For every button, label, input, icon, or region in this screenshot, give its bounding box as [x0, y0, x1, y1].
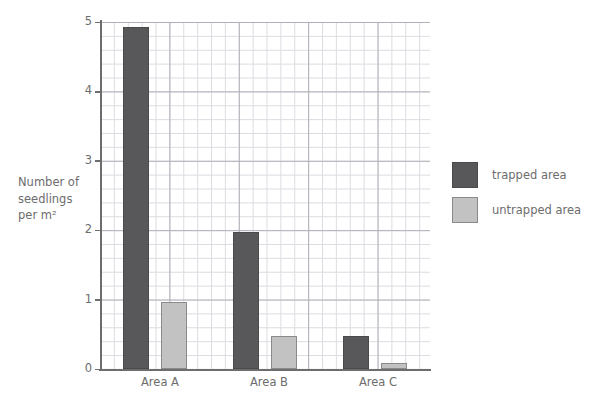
- legend-label-untrapped: untrapped area: [492, 203, 581, 217]
- y-tick-label-5: 5: [68, 16, 92, 28]
- bars-layer: [100, 22, 430, 369]
- legend-label-trapped: trapped area: [492, 168, 567, 182]
- bar-area-c-untrapped: [381, 363, 407, 369]
- x-axis-label-area-a: Area A: [115, 376, 205, 389]
- bar-area-b-trapped: [233, 232, 259, 369]
- x-axis-label-area-b: Area B: [224, 376, 314, 389]
- y-tick-label-1: 1: [68, 294, 92, 306]
- y-axis-title-line-3: per m²: [18, 207, 94, 224]
- y-axis-title-line-2: seedlings: [18, 191, 94, 208]
- y-tick-label-4: 4: [68, 85, 92, 97]
- y-tick-label-2: 2: [68, 224, 92, 236]
- legend-item-trapped: trapped area: [452, 162, 582, 188]
- legend-swatch-untrapped-icon: [452, 197, 478, 223]
- y-tick-label-3: 3: [68, 155, 92, 167]
- y-axis-title: Number of seedlings per m²: [18, 174, 94, 224]
- bar-area-c-trapped: [343, 336, 369, 369]
- bar-area-a-trapped: [123, 27, 149, 369]
- y-axis-title-line-1: Number of: [18, 174, 94, 191]
- x-axis-line: [99, 369, 431, 371]
- bar-area-b-untrapped: [271, 336, 297, 369]
- legend: trapped area untrapped area: [452, 162, 582, 232]
- legend-item-untrapped: untrapped area: [452, 197, 582, 223]
- legend-swatch-trapped-icon: [452, 162, 478, 188]
- x-axis-label-area-c: Area C: [333, 376, 423, 389]
- bar-chart: Number of seedlings per m² 5 4 3 2 1 0 A…: [0, 0, 590, 409]
- y-tick-label-0: 0: [68, 363, 92, 375]
- bar-area-a-untrapped: [161, 302, 187, 369]
